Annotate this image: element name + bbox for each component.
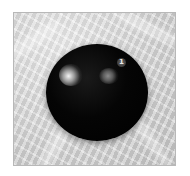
secondary-highlight xyxy=(99,68,119,84)
number-badge: 1 xyxy=(117,58,126,67)
black-ball: 1 xyxy=(46,44,148,141)
specular-highlight xyxy=(59,64,83,86)
photo-frame: 1 xyxy=(13,12,176,166)
